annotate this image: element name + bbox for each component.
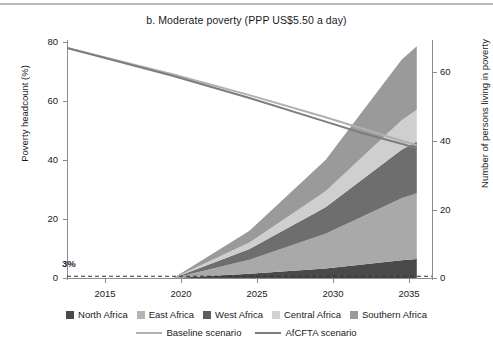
legend-label: Baseline scenario [166,327,241,338]
y-tick-label-left-80: 80 [32,36,58,47]
legend-label: Central Africa [284,309,341,320]
legend-item-central-africa[interactable]: Central Africa [272,309,341,320]
y-tick-label-right-60: 60 [440,66,466,77]
legend-line-icon [255,332,281,334]
legend-swatch-icon [137,311,145,319]
legend-item-baseline-scenario[interactable]: Baseline scenario [136,327,241,338]
y-axis-right-line [432,40,433,280]
legend-swatch-icon [203,311,211,319]
y-tick-right-40 [433,141,437,142]
y-tick-right-60 [433,72,437,73]
y-tick-right-20 [433,210,437,211]
legend-item-afcfta-scenario[interactable]: AfCFTA scenario [255,327,356,338]
y-tick-label-right-0: 0 [440,272,466,283]
y-tick-label-left-20: 20 [32,213,58,224]
chart-figure: b. Moderate poverty (PPP US$5.50 a day) … [0,0,493,341]
y-tick-label-left-0: 0 [32,272,58,283]
y-tick-right-0 [433,278,437,279]
legend-swatch-icon [66,311,74,319]
legend-item-east-africa[interactable]: East Africa [137,309,194,320]
x-tick-label-2035: 2035 [386,288,432,299]
y-axis-left-title: Poverty headcount (%) [19,34,30,194]
legend-label: Southern Africa [362,309,427,320]
legend-swatch-icon [350,311,358,319]
x-tick-label-2030: 2030 [310,288,356,299]
legend-swatch-icon [272,311,280,319]
plot-svg [67,42,432,278]
x-tick-2025 [257,279,258,283]
plot-area [67,42,432,278]
legend-label: North Africa [78,309,128,320]
x-tick-2035 [409,279,410,283]
legend-item-west-africa[interactable]: West Africa [203,309,263,320]
y-tick-left-0 [63,278,67,279]
x-axis-line [67,278,433,279]
legend-label: East Africa [149,309,194,320]
legend-scenarios: Baseline scenarioAfCFTA scenario [0,327,493,338]
legend-item-southern-africa[interactable]: Southern Africa [350,309,427,320]
y-tick-label-left-40: 40 [32,154,58,165]
legend-regions: North AfricaEast AfricaWest AfricaCentra… [0,309,493,320]
x-tick-2020 [181,279,182,283]
x-tick-2015 [105,279,106,283]
y-axis-right-title: Number of persons living in poverty [479,34,490,194]
x-tick-label-2020: 2020 [158,288,204,299]
legend-label: West Africa [215,309,263,320]
y-tick-label-left-60: 60 [32,95,58,106]
legend-item-north-africa[interactable]: North Africa [66,309,128,320]
chart-title: b. Moderate poverty (PPP US$5.50 a day) [0,14,493,26]
line-afcfta-scenario [67,48,417,148]
top-divider-rule [0,3,493,5]
y-tick-label-right-40: 40 [440,135,466,146]
legend-line-icon [136,332,162,334]
legend-label: AfCFTA scenario [285,327,356,338]
x-tick-label-2025: 2025 [234,288,280,299]
x-tick-label-2015: 2015 [82,288,128,299]
x-tick-2030 [333,279,334,283]
y-tick-label-right-20: 20 [440,204,466,215]
